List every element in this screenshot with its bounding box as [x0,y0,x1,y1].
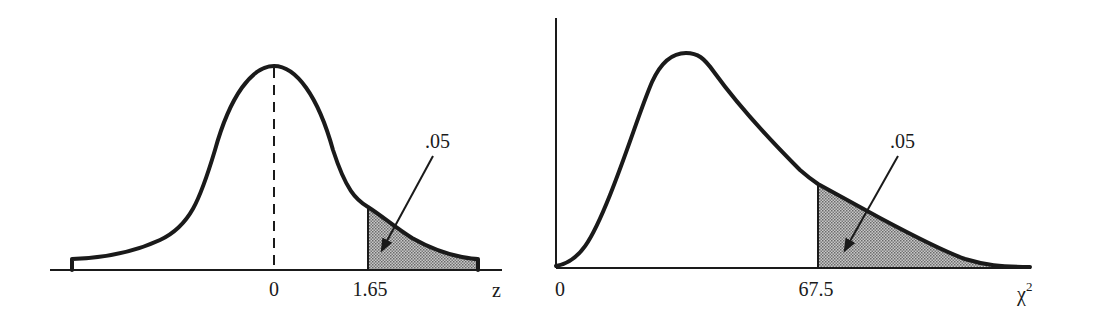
x-axis-label: z [492,279,501,301]
chi-symbol: χ [1016,283,1026,306]
area-label: .05 [425,130,450,152]
zero-tick-label: 0 [555,278,565,300]
chi-square-curve [556,53,1030,267]
x-axis-label: χ2 [1016,279,1032,306]
chi-square-distribution-chart: .05 0 67.5 χ2 [555,18,1032,306]
area-label: .05 [890,130,915,152]
figure: .05 0 1.65 z .05 0 67.5 χ2 [0,0,1098,323]
rejection-region-shading [818,184,1030,268]
normal-distribution-chart: .05 0 1.65 z [50,66,502,301]
critical-value-label: 1.65 [353,278,388,300]
zero-tick-label: 0 [269,278,279,300]
superscript-two: 2 [1026,279,1033,294]
critical-value-label: 67.5 [799,278,834,300]
